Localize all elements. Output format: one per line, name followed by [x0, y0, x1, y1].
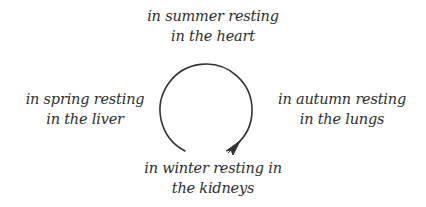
cycle-arc: [160, 64, 252, 151]
circular-arrow-icon: [0, 0, 426, 207]
arrowhead-icon: [226, 141, 240, 155]
